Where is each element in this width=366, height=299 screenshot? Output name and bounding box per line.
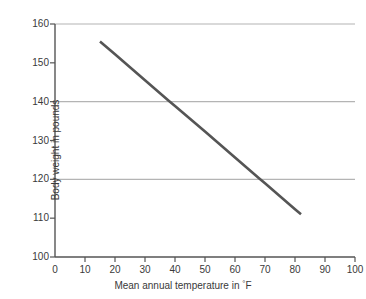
x-tick-label: 100 — [347, 265, 364, 275]
data-series-group — [100, 41, 301, 214]
axis-ticks — [50, 24, 355, 262]
x-tick-label: 90 — [319, 265, 330, 275]
x-tick-label: 0 — [52, 265, 58, 275]
y-tick-label: 140 — [20, 97, 49, 107]
y-tick-label: 130 — [20, 136, 49, 146]
x-axis-title: Mean annual temperature in °F — [0, 278, 366, 291]
x-axis-title-text: Mean annual temperature in — [114, 280, 242, 291]
y-tick-label: 120 — [20, 174, 49, 184]
x-tick-label: 20 — [109, 265, 120, 275]
x-tick-label: 60 — [229, 265, 240, 275]
x-tick-label: 10 — [79, 265, 90, 275]
y-tick-label: 160 — [20, 19, 49, 29]
y-tick-label: 150 — [20, 58, 49, 68]
y-tick-label: 110 — [20, 213, 49, 223]
x-tick-label: 70 — [259, 265, 270, 275]
x-tick-label: 40 — [169, 265, 180, 275]
y-tick-label: 100 — [20, 252, 49, 262]
x-axis-unit-text: F — [245, 280, 251, 291]
gridlines — [55, 24, 355, 179]
x-tick-label: 50 — [199, 265, 210, 275]
series-line — [100, 41, 301, 214]
x-tick-label: 30 — [139, 265, 150, 275]
x-tick-label: 80 — [289, 265, 300, 275]
chart-figure: 100110120130140150160 010203040506070809… — [0, 0, 366, 299]
y-axis-title: Body weight in pounds — [51, 99, 61, 200]
